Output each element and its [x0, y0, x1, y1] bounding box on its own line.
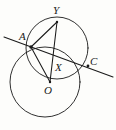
point-marker-a	[29, 45, 32, 48]
point-label-o: O	[44, 85, 52, 96]
point-marker-c	[87, 65, 90, 68]
point-marker-o	[49, 81, 51, 83]
lower-left-circle	[10, 47, 80, 117]
point-label-c: C	[90, 56, 97, 67]
point-label-x: X	[55, 62, 62, 73]
point-label-y: Y	[53, 5, 59, 16]
chord-Y-O	[50, 22, 57, 82]
point-label-a: A	[19, 31, 26, 42]
geometry-figure: Y A X O C	[0, 0, 116, 130]
point-marker-y	[56, 21, 58, 23]
chord-A-O	[31, 47, 50, 82]
